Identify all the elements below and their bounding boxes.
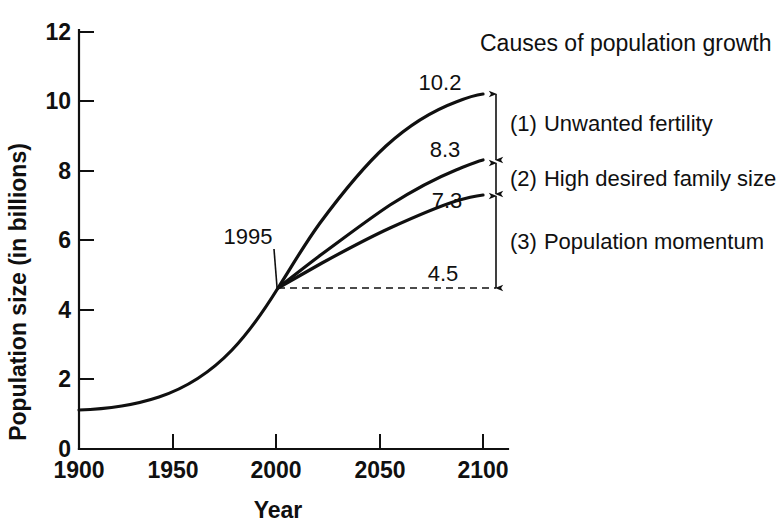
legend-item-2: (2)High desired family size — [510, 166, 776, 191]
x-tick-label-2100: 2100 — [457, 457, 508, 483]
y-tick-label-8: 8 — [58, 158, 71, 184]
value-label-4-5: 4.5 — [428, 261, 459, 286]
legend-item-1-label: Unwanted fertility — [544, 111, 713, 136]
value-label-8-3: 8.3 — [430, 137, 461, 162]
value-label-7-3: 7.3 — [432, 188, 463, 213]
legend-item-3-text: (3)Population momentum — [510, 229, 764, 254]
y-axis-tick-labels: 12 10 8 6 4 2 0 — [45, 19, 71, 462]
legend-item-3: (3)Population momentum — [510, 229, 764, 254]
legend-item-1: (1)Unwanted fertility — [510, 111, 713, 136]
y-axis-title: Population size (in billions) — [5, 143, 31, 441]
legend-item-3-marker: (3) — [510, 229, 537, 254]
x-axis-title: Year — [254, 497, 303, 523]
y-tick-label-12: 12 — [45, 19, 71, 45]
legend-item-2-text: (2)High desired family size — [510, 166, 776, 191]
x-axis-tick-labels: 1900 1950 2000 2050 2100 — [53, 457, 508, 483]
y-tick-label-6: 6 — [58, 227, 71, 253]
y-tick-label-2: 2 — [58, 366, 71, 392]
divergence-year-label: 1995 — [224, 224, 273, 249]
chart-page: 12 10 8 6 4 2 0 1900 1950 2000 2050 2100… — [0, 0, 776, 531]
divergence-pointer-line — [274, 249, 277, 287]
legend-title: Causes of population growth — [480, 30, 772, 56]
x-tick-label-2000: 2000 — [250, 457, 301, 483]
y-tick-label-4: 4 — [58, 297, 71, 323]
legend-item-2-marker: (2) — [510, 166, 537, 191]
legend-item-1-marker: (1) — [510, 111, 537, 136]
population-growth-line-chart: 12 10 8 6 4 2 0 1900 1950 2000 2050 2100… — [0, 0, 776, 531]
y-axis-ticks — [79, 32, 94, 379]
x-tick-label-2050: 2050 — [354, 457, 405, 483]
x-tick-label-1950: 1950 — [147, 457, 198, 483]
legend-item-2-label: High desired family size — [544, 166, 776, 191]
legend-item-3-label: Population momentum — [544, 229, 764, 254]
x-tick-label-1900: 1900 — [53, 457, 104, 483]
value-label-10-2: 10.2 — [419, 70, 462, 95]
legend-item-1-text: (1)Unwanted fertility — [510, 111, 713, 136]
x-axis-ticks — [173, 434, 483, 449]
y-tick-label-10: 10 — [45, 88, 71, 114]
series-line-high — [79, 94, 483, 410]
